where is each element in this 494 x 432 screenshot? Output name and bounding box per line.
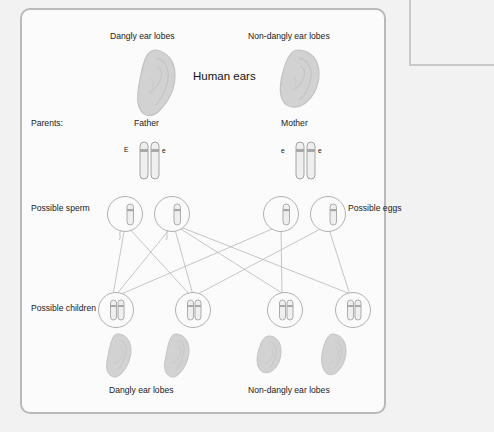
egg-cell-1 <box>262 194 302 236</box>
child-cell-4 <box>333 291 373 331</box>
sperm-cell-1 <box>106 194 146 240</box>
child-cell-3 <box>265 291 305 331</box>
egg-cell-2 <box>309 194 349 236</box>
child-cell-2 <box>173 291 213 331</box>
sperm-cell-2 <box>153 194 193 240</box>
inheritance-lines <box>0 0 494 432</box>
child-cell-1 <box>96 291 136 331</box>
